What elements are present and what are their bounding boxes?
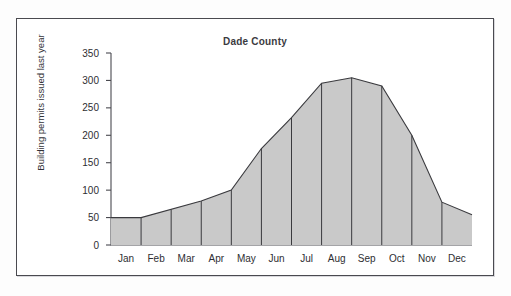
y-tick-label: 250 [82,102,99,113]
x-tick-label: Sep [358,253,376,264]
x-tick-label: Aug [328,253,346,264]
y-axis-tick-marks [106,53,111,245]
y-tick-label: 200 [82,130,99,141]
x-tick-label: Jun [268,253,284,264]
y-tick-label: 300 [82,75,99,86]
x-tick-label: May [237,253,256,264]
x-tick-label: Mar [178,253,196,264]
page-background: Dade County Building permits issued last… [0,0,511,296]
chart-area: Dade County Building permits issued last… [17,19,493,275]
x-tick-label: Apr [209,253,225,264]
x-tick-label: Feb [148,253,166,264]
x-tick-label: Jul [300,253,313,264]
chart-frame: Dade County Building permits issued last… [16,18,494,276]
x-tick-label: Dec [448,253,466,264]
x-tick-label: Oct [389,253,405,264]
x-tick-label: Nov [418,253,436,264]
y-tick-label: 350 [82,48,99,59]
y-tick-label: 150 [82,157,99,168]
x-axis-tick-labels: JanFebMarAprMayJunJulAugSepOctNovDec [118,253,466,264]
y-tick-label: 50 [88,212,100,223]
x-tick-label: Jan [118,253,134,264]
y-axis-tick-labels: 050100150200250300350 [82,48,99,251]
y-tick-label: 100 [82,185,99,196]
chart-plot: 050100150200250300350 JanFebMarAprMayJun… [17,19,495,277]
y-tick-label: 0 [93,240,99,251]
